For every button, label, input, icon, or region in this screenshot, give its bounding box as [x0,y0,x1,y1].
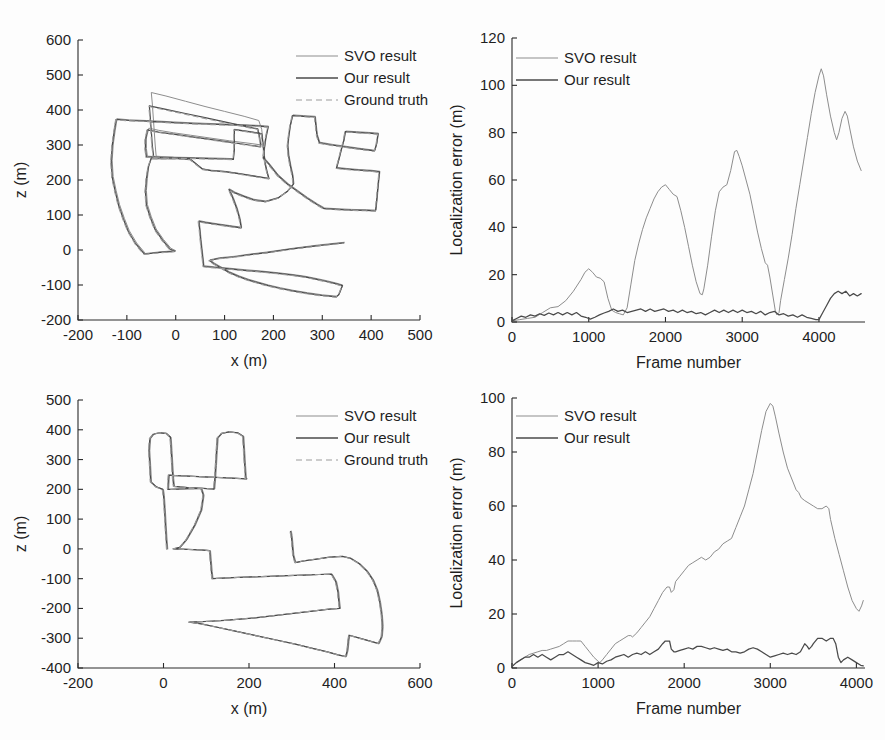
legend: SVO resultOur resultGround truth [296,407,428,468]
series-group [111,93,380,298]
x-tick-label: -100 [112,326,142,343]
top-left-plot-svg: -200-1000100200300400500600-200-10001002… [0,0,445,375]
y-tick-label: -100 [41,276,71,293]
x-tick-label: -200 [63,326,93,343]
y-tick-label: 20 [488,605,505,622]
x-tick-label: 0 [159,674,167,691]
y-tick-label: 80 [488,443,505,460]
bottom-right-plot-svg: 02040608010001000200030004000Frame numbe… [440,368,885,740]
y-tick-label: 300 [46,136,71,153]
x-tick-label: 0 [508,674,516,691]
x-tick-label: 0 [172,326,180,343]
x-axis-label: x (m) [231,352,267,369]
legend-label-our-result: Our result [344,429,411,446]
y-axis-label: z (m) [12,516,29,552]
legend-label-svo-result: SVO result [564,49,637,66]
x-tick-label: 3000 [726,328,759,345]
y-tick-label: 20 [488,266,505,283]
y-tick-label: 0 [497,313,505,330]
y-tick-label: 200 [46,480,71,497]
y-tick-label: 300 [46,451,71,468]
y-tick-label: 120 [480,29,505,46]
legend: SVO resultOur result [516,407,637,446]
x-tick-label: 2000 [649,328,682,345]
panel-bottom-left-trajectory: -400-300-200-1000100200300400500-2000200… [0,368,445,740]
series-line-svo-result [112,93,380,297]
top-right-plot-svg: 02040608010012001000200030004000Frame nu… [440,0,885,375]
y-axis-label: Localization error (m) [448,457,465,608]
y-tick-label: -200 [41,599,71,616]
figure-canvas: -200-1000100200300400500600-200-10001002… [0,0,885,740]
y-tick-label: 400 [46,101,71,118]
x-tick-label: 4000 [840,674,873,691]
legend: SVO resultOur resultGround truth [296,47,428,108]
x-tick-label: 600 [407,674,432,691]
y-tick-label: 40 [488,218,505,235]
y-tick-label: -100 [41,570,71,587]
x-tick-label: 0 [508,328,516,345]
x-tick-label: -200 [63,674,93,691]
y-axis-label: Localization error (m) [448,104,465,255]
panel-top-left-trajectory: -200-1000100200300400500600-200-10001002… [0,0,445,375]
x-tick-label: 200 [261,326,286,343]
legend-label-ground-truth: Ground truth [344,91,428,108]
y-tick-label: 0 [63,540,71,557]
x-tick-label: 400 [359,326,384,343]
y-tick-label: 100 [480,76,505,93]
x-tick-label: 2000 [668,674,701,691]
x-tick-label: 300 [310,326,335,343]
x-axis-label: x (m) [231,700,267,717]
legend-label-our-result: Our result [344,69,411,86]
series-line-our-result [512,291,861,321]
y-axis-label: z (m) [12,162,29,198]
y-tick-label: 0 [497,659,505,676]
legend-label-ground-truth: Ground truth [344,451,428,468]
y-tick-label: 80 [488,124,505,141]
y-tick-label: 200 [46,171,71,188]
x-axis-label: Frame number [636,700,742,717]
panel-bottom-right-error: 02040608010001000200030004000Frame numbe… [440,368,885,740]
y-tick-label: 60 [488,497,505,514]
x-tick-label: 100 [212,326,237,343]
legend-label-our-result: Our result [564,71,631,88]
x-tick-label: 1000 [581,674,614,691]
y-tick-label: 400 [46,421,71,438]
legend: SVO resultOur result [516,49,637,88]
legend-label-our-result: Our result [564,429,631,446]
x-tick-label: 3000 [754,674,787,691]
x-tick-label: 200 [236,674,261,691]
y-tick-label: 500 [46,66,71,83]
panel-top-right-error: 02040608010012001000200030004000Frame nu… [440,0,885,375]
legend-label-svo-result: SVO result [344,407,417,424]
x-tick-label: 400 [322,674,347,691]
y-tick-label: 40 [488,551,505,568]
y-tick-label: 60 [488,171,505,188]
legend-label-svo-result: SVO result [344,47,417,64]
y-tick-label: 600 [46,31,71,48]
bottom-left-plot-svg: -400-300-200-1000100200300400500-2000200… [0,368,445,740]
series-line-svo-result [512,69,861,321]
y-tick-label: 100 [480,389,505,406]
y-tick-label: 100 [46,510,71,527]
y-tick-label: 0 [63,241,71,258]
legend-label-svo-result: SVO result [564,407,637,424]
series-line-our-result [111,106,379,297]
y-tick-label: 500 [46,391,71,408]
x-tick-label: 4000 [802,328,835,345]
x-tick-label: 500 [407,326,432,343]
y-tick-label: -300 [41,629,71,646]
x-tick-label: 1000 [572,328,605,345]
y-tick-label: 100 [46,206,71,223]
series-group [512,69,861,321]
